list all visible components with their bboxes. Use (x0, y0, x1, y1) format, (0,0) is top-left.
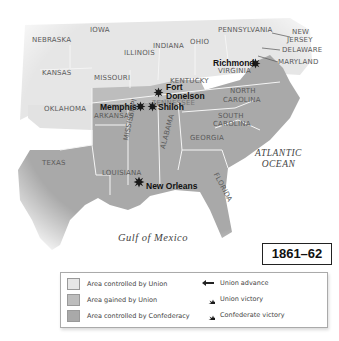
state-label-iowa: IOWA (90, 27, 110, 34)
union-swatch (67, 278, 80, 290)
map-legend: Area controlled by Union Area gained by … (60, 272, 328, 328)
state-label-kansas: KANSAS (42, 70, 72, 77)
city-label-donelson: Donelson (166, 92, 205, 101)
city-label-memphis: Memphis (100, 103, 137, 112)
state-label-missouri: MISSOURI (94, 75, 130, 82)
state-label-north-carolina-2: CAROLINA (223, 97, 261, 104)
state-label-nebraska: NEBRASKA (32, 37, 71, 44)
state-label-oklahoma: OKLAHOMA (44, 106, 86, 113)
water-label-gulf: Gulf of Mexico (118, 232, 188, 244)
water-label-atlantic-2: OCEAN (255, 159, 302, 170)
legend-item-gained: Area gained by Union (67, 294, 157, 306)
state-label-maryland: MARYLAND (278, 59, 319, 66)
legend-label-union-victory: Union victory (220, 295, 263, 303)
legend-label-gained: Area gained by Union (87, 296, 157, 304)
union-victory-icon (201, 294, 215, 304)
legend-label-confederacy: Area controlled by Confederacy (87, 312, 190, 320)
state-label-virginia: VIRGINIA (218, 68, 251, 75)
year-label: 1861–62 (262, 243, 332, 265)
state-label-ohio: OHIO (190, 39, 209, 46)
union-victory-icon-new-orleans (134, 177, 145, 188)
state-label-louisiana: LOUISIANA (102, 170, 141, 177)
state-label-north-carolina-1: NORTH (230, 88, 256, 95)
union-victory-icon-fort-donelson (154, 88, 164, 98)
water-label-atlantic: ATLANTIC OCEAN (255, 148, 302, 170)
legend-item-confederate-victory: Confederate victory (201, 310, 285, 320)
legend-label-union: Area controlled by Union (87, 280, 167, 288)
state-label-south-carolina-2: CAROLINA (213, 121, 251, 128)
confederacy-swatch (67, 310, 80, 322)
state-label-texas: TEXAS (42, 160, 66, 167)
state-label-south-carolina-1: SOUTH (218, 113, 244, 120)
state-label-new-jersey-2: JERSEY (287, 37, 313, 44)
state-label-georgia: GEORGIA (190, 135, 224, 142)
state-label-new-jersey-1: NEW (292, 29, 309, 36)
city-label-richmond: Richmond (213, 59, 255, 68)
gained-swatch (67, 294, 80, 306)
legend-item-union-advance: Union advance (201, 278, 268, 288)
state-label-delaware: DELAWARE (282, 47, 323, 54)
legend-label-confederate-victory: Confederate victory (220, 311, 285, 319)
state-label-pennsylvania: PENNSYLVANIA (218, 27, 273, 34)
city-label-new-orleans: New Orleans (146, 182, 198, 191)
confederate-victory-icon (201, 310, 215, 320)
state-label-indiana: INDIANA (153, 43, 184, 50)
state-label-illinois: ILLINOIS (124, 50, 155, 57)
legend-label-union-advance: Union advance (220, 279, 268, 287)
arrow-left-icon (201, 278, 215, 288)
legend-item-union-victory: Union victory (201, 294, 263, 304)
legend-item-union: Area controlled by Union (67, 278, 167, 290)
city-label-shiloh: Shiloh (158, 103, 184, 112)
water-label-atlantic-1: ATLANTIC (255, 148, 302, 159)
legend-item-confederacy: Area controlled by Confederacy (67, 310, 190, 322)
